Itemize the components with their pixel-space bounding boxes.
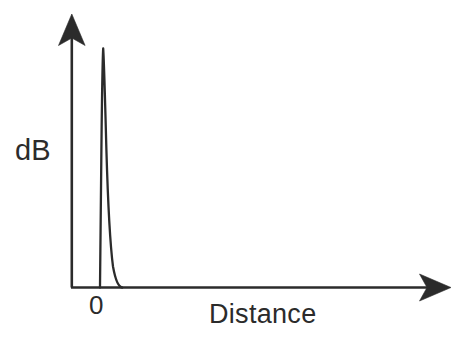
data-curve-impulse-peak	[100, 49, 122, 288]
y-axis-label: dB	[15, 136, 50, 165]
x-axis-origin-tick-label: 0	[89, 292, 103, 318]
figure-canvas: dB 0 Distance	[0, 0, 461, 342]
plot-graphic	[0, 0, 461, 342]
x-axis-label: Distance	[209, 301, 316, 328]
